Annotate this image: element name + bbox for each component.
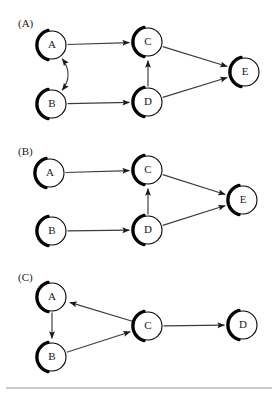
edge-panel-b-A-to-C	[65, 171, 129, 173]
node-panel-c-A[interactable]: A	[37, 282, 66, 311]
node-panel-c-D[interactable]: D	[228, 310, 257, 339]
node-label-D: D	[239, 318, 247, 330]
node-label-C: C	[144, 319, 151, 331]
edge-panel-c-C-to-D	[163, 325, 224, 326]
node-label-B: B	[48, 350, 55, 362]
edge-panel-a-D-to-E	[163, 77, 228, 97]
node-label-C: C	[144, 35, 151, 47]
panel-labels-layer: (A)(B)(C)	[18, 17, 34, 284]
node-label-E: E	[240, 193, 247, 205]
edge-panel-a-A-to-B	[62, 59, 68, 91]
node-label-D: D	[144, 223, 152, 235]
node-label-D: D	[144, 95, 152, 107]
node-label-B: B	[48, 97, 55, 109]
node-panel-b-C[interactable]: C	[133, 155, 162, 184]
node-label-B: B	[48, 224, 55, 236]
node-panel-a-E[interactable]: E	[230, 57, 259, 86]
panel-label-panel-a: (A)	[18, 17, 34, 30]
edge-panel-b-B-to-D	[67, 230, 129, 231]
node-panel-c-B[interactable]: B	[37, 342, 66, 371]
node-label-E: E	[242, 65, 249, 77]
nodes-layer: ABCDEABCDEABCD	[35, 27, 259, 371]
figure-container: ABCDEABCDEABCD (A)(B)(C)	[0, 0, 277, 394]
graph-figure-svg: ABCDEABCDEABCD (A)(B)(C)	[0, 0, 277, 394]
node-label-A: A	[48, 290, 56, 302]
node-panel-b-A[interactable]: A	[35, 158, 64, 187]
node-label-A: A	[46, 166, 54, 178]
node-panel-b-E[interactable]: E	[228, 185, 257, 214]
node-panel-a-C[interactable]: C	[133, 27, 162, 56]
edge-panel-a-C-to-E	[163, 47, 228, 67]
node-panel-b-B[interactable]: B	[37, 216, 66, 245]
panel-label-panel-b: (B)	[18, 145, 33, 158]
node-panel-a-B[interactable]: B	[37, 89, 66, 118]
edge-panel-c-C-to-A	[70, 302, 133, 321]
edge-panel-c-B-to-C	[67, 332, 131, 353]
panel-label-panel-c: (C)	[18, 271, 33, 284]
node-panel-a-D[interactable]: D	[133, 87, 162, 116]
node-label-C: C	[144, 163, 151, 175]
node-panel-b-D[interactable]: D	[133, 215, 162, 244]
node-panel-a-A[interactable]: A	[37, 30, 66, 59]
edge-panel-a-B-to-D	[67, 102, 129, 103]
node-panel-c-C[interactable]: C	[133, 311, 162, 340]
edge-panel-b-C-to-E	[163, 175, 226, 195]
edge-panel-a-A-to-C	[67, 43, 129, 45]
edge-panel-b-D-to-E	[163, 206, 226, 226]
node-label-A: A	[48, 38, 56, 50]
